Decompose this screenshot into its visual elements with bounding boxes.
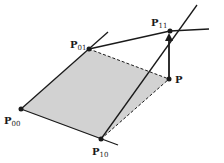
label-p00: P00 [4, 115, 20, 128]
point-p10 [99, 137, 104, 142]
label-p10: P10 [92, 146, 108, 159]
label-p: P [175, 74, 183, 85]
edge-p11-extension [170, 29, 209, 31]
label-p11: P11 [151, 17, 167, 30]
bilinear-patch-diagram: P00 P01 P10 P11 P [0, 0, 224, 163]
edge-p01-p11 [89, 31, 170, 49]
point-p01 [87, 47, 92, 52]
point-p11 [168, 29, 173, 34]
point-p [167, 77, 172, 82]
point-p00 [19, 107, 24, 112]
projected-plane-fill [21, 49, 169, 139]
label-p01: P01 [70, 39, 86, 52]
